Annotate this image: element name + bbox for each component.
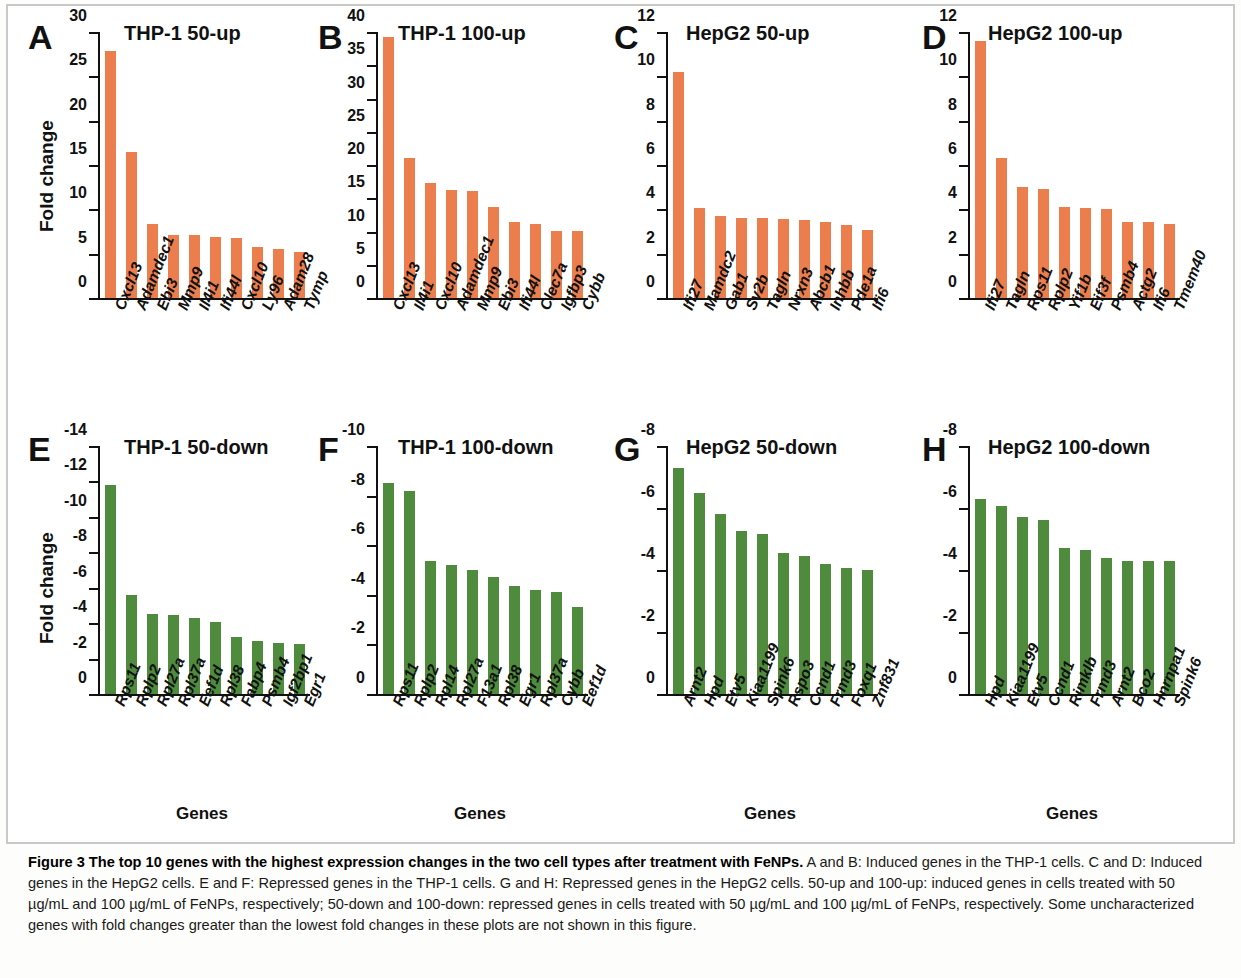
bar-slot [504,446,525,694]
panel-letter-b: B [318,20,343,54]
x-axis-title-e: Genes [176,804,228,824]
bar-slot [100,446,121,694]
bar-slot [399,446,420,694]
bar-slot [836,32,857,298]
bar-slot [815,446,836,694]
y-tick [959,694,968,696]
y-tick [367,595,376,597]
y-tick [89,481,98,483]
bar-slot [504,32,525,298]
y-tick-label: 4 [646,184,655,202]
y-tick [367,232,376,234]
y-tick-label: 40 [347,7,365,25]
bar[interactable] [694,493,706,695]
bar-slot [857,446,878,694]
y-tick [89,209,98,211]
bar-slot [1012,32,1033,298]
figure-3: ATHP-1 50-upFold change051015202530Cxcl1… [0,0,1241,978]
bar[interactable] [1038,520,1050,694]
y-tick [367,99,376,101]
y-tick-label: 2 [948,229,957,247]
bar-slot [1159,32,1180,298]
caption-lead: Figure 3 The top 10 genes with the highe… [28,854,803,870]
bar[interactable] [1164,224,1176,298]
y-tick [657,165,666,167]
y-tick [657,632,666,634]
bar[interactable] [996,506,1008,694]
bar[interactable] [383,37,395,298]
bar[interactable] [736,531,748,694]
y-tick-label: -2 [73,634,87,652]
bar-slot [1075,32,1096,298]
y-tick-label: -2 [351,619,365,637]
bar-slot [668,32,689,298]
bar-slot [1054,446,1075,694]
y-tick [367,165,376,167]
bar[interactable] [673,72,685,298]
y-tick [959,76,968,78]
y-tick-label: -10 [64,492,87,510]
bar-slot [100,32,121,298]
y-tick [367,132,376,134]
panel-letter-d: D [922,20,947,54]
plot-area-c: 024681012 [666,32,878,300]
panel-letter-c: C [614,20,639,54]
y-tick [657,76,666,78]
y-tick [89,254,98,256]
bar[interactable] [673,468,685,694]
y-tick [657,254,666,256]
bar-slot [525,446,546,694]
y-tick-label: 0 [948,273,957,291]
bar[interactable] [975,499,987,694]
bar-slot [247,32,268,298]
y-tick-label: -4 [641,545,655,563]
bar-slot [525,32,546,298]
bar-slot [970,446,991,694]
y-tick [89,552,98,554]
y-tick-label: 20 [347,140,365,158]
bar-slot [773,32,794,298]
y-tick [89,446,98,448]
bar-series-d [970,32,1180,298]
panel-letter-g: G [614,432,640,466]
y-tick [657,121,666,123]
y-tick [657,508,666,510]
bar-slot [121,446,142,694]
bar[interactable] [996,158,1008,298]
bar-slot [991,32,1012,298]
y-tick [89,165,98,167]
y-tick-label: -8 [351,471,365,489]
y-tick [959,165,968,167]
bar[interactable] [975,41,987,298]
y-axis-title-e: Fold change [36,532,58,644]
plot-area-h: 0-2-4-6-8 [968,446,1180,696]
bar-slot [836,446,857,694]
bar-slot [205,446,226,694]
y-tick-label: 5 [356,240,365,258]
y-tick-label: 0 [646,273,655,291]
bar[interactable] [105,51,117,298]
y-tick [89,659,98,661]
bar-slot [483,446,504,694]
bar-series-h [970,446,1180,694]
bar-slot [689,32,710,298]
y-tick-label: 12 [637,7,655,25]
bar-slot [121,32,142,298]
y-tick-label: -2 [641,607,655,625]
bar[interactable] [715,514,727,694]
bar-slot [420,32,441,298]
bar-slot [184,32,205,298]
y-tick [89,517,98,519]
bar[interactable] [383,483,395,694]
y-tick [959,298,968,300]
y-tick-label: -8 [943,421,957,439]
bar-slot [441,446,462,694]
x-axis-title-f: Genes [454,804,506,824]
y-tick-label: 0 [646,669,655,687]
bar-slot [567,32,588,298]
y-tick [367,644,376,646]
bar[interactable] [105,485,117,694]
bar-slot [567,446,588,694]
y-tick-label: 2 [646,229,655,247]
y-tick [89,32,98,34]
